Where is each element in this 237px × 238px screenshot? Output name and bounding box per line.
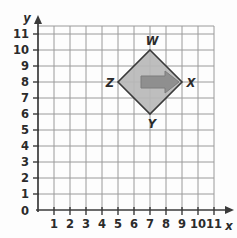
y-tick-label-3: 3 [21, 155, 29, 169]
y-tick-label-1: 1 [21, 187, 29, 201]
vertex-label-w: W [146, 34, 160, 48]
y-tick-label-6: 6 [21, 107, 29, 121]
coordinate-grid-graph: 1 2 3 4 5 6 7 8 9 10 11 0 1 2 3 4 5 6 7 … [0, 0, 237, 238]
x-tick-label-2: 2 [66, 217, 74, 231]
x-tick-label-11: 11 [206, 217, 222, 231]
y-tick-label-11: 11 [13, 27, 29, 41]
figure-canvas: 1 2 3 4 5 6 7 8 9 10 11 0 1 2 3 4 5 6 7 … [0, 0, 237, 238]
x-tick-label-10: 10 [190, 217, 206, 231]
x-tick-label-8: 8 [162, 217, 170, 231]
y-tick-label-2: 2 [21, 171, 29, 185]
x-tick-label-3: 3 [82, 217, 90, 231]
x-tick-label-9: 9 [178, 217, 186, 231]
vertex-label-x: X [186, 76, 197, 90]
y-tick-label-8: 8 [21, 75, 29, 89]
origin-label: 0 [21, 204, 29, 218]
x-tick-label-4: 4 [98, 217, 106, 231]
y-tick-label-4: 4 [21, 139, 29, 153]
x-tick-label-7: 7 [146, 217, 154, 231]
y-axis-label: y [23, 11, 31, 25]
x-axis-label: x [224, 219, 233, 233]
x-tick-label-5: 5 [114, 217, 122, 231]
x-tick-label-1: 1 [50, 217, 58, 231]
y-tick-label-7: 7 [21, 91, 29, 105]
y-tick-label-9: 9 [21, 59, 29, 73]
x-tick-label-6: 6 [130, 217, 138, 231]
y-tick-label-10: 10 [13, 43, 29, 57]
y-tick-label-5: 5 [21, 123, 29, 137]
vertex-label-z: Z [105, 76, 115, 90]
